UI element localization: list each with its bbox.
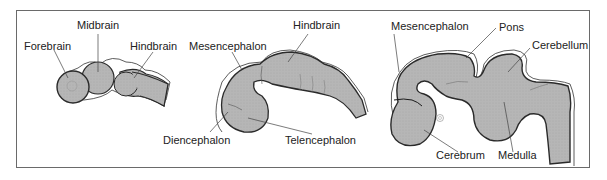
label-mesencephalon-late: Mesencephalon bbox=[391, 20, 469, 32]
forebrain-segment-1 bbox=[57, 71, 89, 103]
label-mesencephalon-middle: Mesencephalon bbox=[189, 40, 267, 52]
label-forebrain: Forebrain bbox=[24, 40, 71, 52]
label-pons: Pons bbox=[499, 21, 524, 33]
label-midbrain: Midbrain bbox=[77, 19, 119, 31]
label-hindbrain-early: Hindbrain bbox=[130, 40, 177, 52]
label-cerebellum: Cerebellum bbox=[532, 39, 588, 51]
label-medulla: Medulla bbox=[498, 149, 537, 161]
label-cerebrum: Cerebrum bbox=[436, 149, 485, 161]
brain-body-middle bbox=[222, 52, 367, 132]
label-diencephalon: Diencephalon bbox=[163, 134, 230, 146]
label-telencephalon: Telencephalon bbox=[285, 134, 356, 146]
label-hindbrain-middle: Hindbrain bbox=[293, 19, 340, 31]
brain-body-late bbox=[391, 54, 571, 165]
